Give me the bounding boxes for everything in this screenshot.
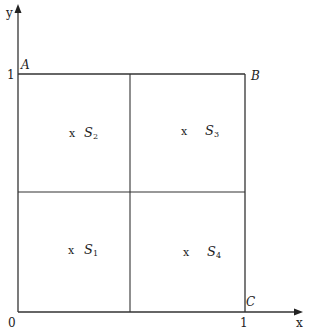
x-axis (18, 309, 303, 316)
y-axis-label: y (5, 6, 13, 20)
y-axis (15, 4, 22, 312)
region-s2: x S2 (69, 125, 98, 141)
region-s1: x S1 (68, 242, 98, 258)
region-label: S3 (205, 123, 219, 139)
x-axis-arrow-icon (294, 309, 303, 316)
region-label: S2 (84, 125, 98, 141)
y-tick-label: 1 (7, 68, 15, 82)
y-axis-arrow-icon (15, 4, 22, 13)
corner-a-label: A (20, 58, 30, 72)
diagram-canvas: y x 1 0 1 A B C x S2 x S3 x S1 x S4 (0, 0, 311, 333)
region-label: S4 (207, 244, 221, 260)
corner-c-label: C (246, 295, 255, 309)
unit-square (18, 74, 245, 312)
x-axis-label: x (296, 316, 303, 330)
region-s4: x S4 (183, 244, 221, 260)
origin-label: 0 (8, 316, 16, 330)
cross-marker-icon: x (183, 246, 190, 259)
cross-marker-icon: x (69, 127, 76, 140)
corner-b-label: B (250, 69, 260, 83)
x-tick-label: 1 (240, 316, 248, 330)
cross-marker-icon: x (181, 125, 188, 138)
region-label: S1 (84, 242, 98, 258)
region-s3: x S3 (181, 123, 219, 139)
cross-marker-icon: x (68, 244, 75, 257)
